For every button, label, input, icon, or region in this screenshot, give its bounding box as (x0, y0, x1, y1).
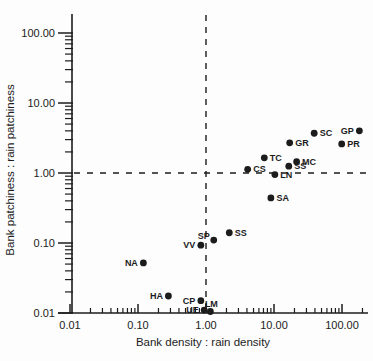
data-point-label: GP (341, 126, 354, 136)
data-point-label: TC (270, 153, 282, 163)
data-point-label: LM (205, 299, 218, 309)
scatter-figure: 0.010.101.0010.00100.00100.0010.001.000.… (0, 0, 373, 361)
data-point-label: SA (276, 193, 289, 203)
data-point (210, 237, 217, 244)
y-tick-label: 100.00 (21, 27, 55, 39)
x-tick-label: 100.00 (325, 319, 359, 331)
data-point-label: GR (295, 138, 309, 148)
data-point (356, 127, 363, 134)
data-point-label: SS (235, 228, 247, 238)
data-point-label: NA (125, 258, 138, 268)
data-point-label: HA (150, 291, 163, 301)
data-point (311, 130, 318, 137)
x-tick-label: 10.00 (260, 319, 288, 331)
y-axis-title: Bank patchiness : rain patchiness (4, 84, 16, 256)
y-tick-label: 0.10 (34, 237, 55, 249)
scatter-plot: 0.010.101.0010.00100.00100.0010.001.000.… (0, 0, 373, 361)
data-point (197, 242, 204, 249)
data-point-label: SS (294, 161, 306, 171)
x-tick-label: 0.01 (59, 319, 80, 331)
data-point (140, 259, 147, 266)
x-axis-title: Bank density : rain density (136, 336, 270, 348)
data-point-label: UE (186, 305, 199, 315)
data-point-label: LN (280, 170, 292, 180)
data-point (207, 308, 214, 315)
reference-lines-layer (74, 15, 368, 312)
data-point-label: PR (347, 139, 360, 149)
data-point (261, 154, 268, 161)
y-tick-label: 1.00 (34, 167, 55, 179)
data-point (197, 297, 204, 304)
data-points-layer: GPSCPRGRMCTCSSCSLNSASSSPVVNAHACPUELM (125, 126, 363, 315)
x-tick-label: 1.00 (195, 319, 216, 331)
data-point (267, 195, 274, 202)
data-point (226, 229, 233, 236)
data-point-label: CS (253, 164, 266, 174)
y-tick-label: 0.01 (34, 307, 55, 319)
data-point (338, 141, 345, 148)
data-point (244, 166, 251, 173)
y-tick-label: 10.00 (27, 97, 55, 109)
data-point (165, 293, 172, 300)
data-point (271, 171, 278, 178)
data-point-label: SP (198, 231, 210, 241)
data-point (286, 139, 293, 146)
x-tick-label: 0.10 (127, 319, 148, 331)
data-point-label: SC (320, 128, 333, 138)
data-point-label: VV (183, 240, 195, 250)
